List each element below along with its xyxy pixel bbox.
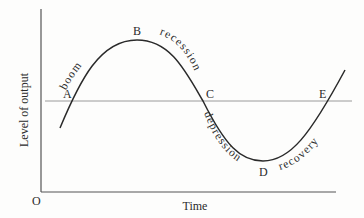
point-label-c: C	[206, 87, 214, 101]
phase-label-recovery: recovery	[277, 134, 322, 172]
point-label-b: B	[133, 24, 141, 38]
point-label-d: D	[259, 165, 268, 179]
point-label-a: A	[63, 87, 72, 101]
origin-label: O	[32, 194, 41, 208]
point-label-e: E	[319, 87, 326, 101]
diagram-canvas: boom recession depression recovery A B C…	[0, 0, 364, 218]
x-axis-label: Time	[183, 199, 208, 213]
business-cycle-diagram: boom recession depression recovery A B C…	[0, 0, 364, 218]
y-axis-label: Level of output	[17, 72, 31, 147]
phase-label-depression: depression	[202, 109, 244, 163]
